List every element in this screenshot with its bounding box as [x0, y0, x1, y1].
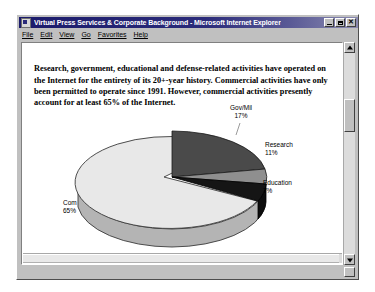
- scroll-down-button[interactable]: [344, 254, 355, 265]
- horizontal-scrollbar[interactable]: [23, 253, 343, 263]
- menu-item-go[interactable]: Go: [81, 30, 90, 39]
- menu-item-go-label: Go: [81, 31, 90, 38]
- pie-label-research-name: Research: [265, 141, 309, 149]
- menu-item-help-label: Help: [134, 31, 148, 38]
- scrollbar-corner: [344, 267, 355, 277]
- pie-label-govmil: Gov/Mil 17%: [218, 104, 264, 120]
- menu-item-help[interactable]: Help: [134, 30, 148, 39]
- menu-item-favorites-label: Favorites: [98, 31, 127, 38]
- browser-window: Virtual Press Services & Corporate Backg…: [16, 14, 359, 280]
- close-icon: ✕: [348, 18, 354, 25]
- vertical-scrollbar-thumb[interactable]: [344, 99, 355, 132]
- window-title: Virtual Press Services & Corporate Backg…: [34, 18, 281, 27]
- pie-label-education-name: Education: [263, 179, 311, 187]
- caret-down-icon: [347, 258, 353, 262]
- close-button[interactable]: ✕: [346, 18, 356, 27]
- pie-label-govmil-name: Gov/Mil: [218, 104, 264, 112]
- document-body: Research, government, educational and de…: [22, 43, 343, 265]
- horizontal-scrollbar-thumb[interactable]: [23, 254, 339, 263]
- pie-label-research: Research 11%: [265, 141, 309, 157]
- scroll-up-button[interactable]: [344, 42, 355, 53]
- minimize-button[interactable]: [324, 18, 334, 27]
- ie-document-icon: [21, 18, 31, 28]
- maximize-button[interactable]: [335, 18, 345, 27]
- pie-label-research-value: 11%: [265, 149, 309, 157]
- caret-up-icon: [347, 45, 353, 49]
- title-bar[interactable]: Virtual Press Services & Corporate Backg…: [19, 17, 358, 28]
- vertical-scrollbar[interactable]: [343, 42, 355, 265]
- pie-chart: Gov/Mil 17% Research 11% Education 7% Co…: [22, 105, 343, 265]
- pie-label-com-name: Com: [63, 199, 101, 207]
- page-canvas: Research, government, educational and de…: [21, 42, 343, 265]
- pie-label-com-value: 65%: [63, 207, 101, 215]
- pie-label-govmil-value: 17%: [218, 112, 264, 120]
- window-controls: ✕: [324, 18, 356, 27]
- menu-item-view[interactable]: View: [59, 30, 74, 39]
- menu-bar: File Edit View Go Favorites Help: [19, 29, 358, 40]
- menu-item-view-label: View: [59, 31, 74, 38]
- client-area: Research, government, educational and de…: [20, 41, 357, 278]
- menu-item-file-label: File: [22, 31, 33, 38]
- intro-paragraph: Research, government, educational and de…: [34, 63, 332, 108]
- menu-item-edit[interactable]: Edit: [40, 30, 52, 39]
- pie-label-education-value: 7%: [263, 187, 311, 195]
- pie-label-education: Education 7%: [263, 179, 311, 195]
- menu-item-file[interactable]: File: [22, 30, 33, 39]
- menu-item-favorites[interactable]: Favorites: [98, 30, 127, 39]
- leader-line-govmil: [236, 123, 240, 135]
- pie-label-com: Com 65%: [63, 199, 101, 215]
- menu-item-edit-label: Edit: [40, 31, 52, 38]
